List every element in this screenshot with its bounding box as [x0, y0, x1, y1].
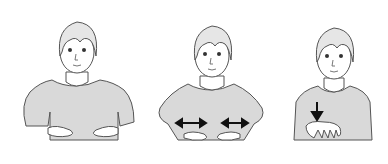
- shirt: [159, 84, 263, 140]
- panel-step-1: [0, 0, 140, 164]
- right-hand: [217, 132, 240, 140]
- panel-step-3: [280, 0, 388, 164]
- panel-step-2: [140, 0, 280, 164]
- signer-figure-1: [0, 0, 140, 164]
- signer-figure-3: [280, 0, 388, 164]
- left-hand: [184, 132, 207, 140]
- signer-figure-2: [140, 0, 280, 164]
